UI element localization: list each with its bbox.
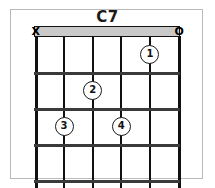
string-2 [63,36,65,188]
nut-bar [34,26,180,37]
string-3 [92,36,94,188]
fret-line-2 [34,108,180,111]
chord-name-title: C7 [0,9,215,25]
finger-marker-2: 2 [83,81,102,100]
finger-marker-4: 4 [112,117,131,136]
fret-line-3 [34,144,180,147]
string-6 [178,36,181,188]
finger-marker-3: 3 [55,117,74,136]
fret-line-1 [34,72,180,75]
string-1 [35,36,38,188]
chord-diagram-card: C7 XO1234 [0,0,215,188]
string-marker-open-6: O [175,26,184,37]
string-marker-muted-1: X [32,26,40,37]
fret-line-4 [34,180,180,183]
string-4 [120,36,122,188]
finger-marker-1: 1 [140,45,159,64]
fretboard: XO1234 [34,26,180,188]
